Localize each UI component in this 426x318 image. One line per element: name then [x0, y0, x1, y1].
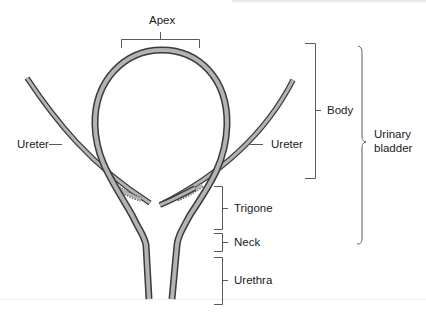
ureter-crossing [160, 188, 195, 205]
bladder-diagram [0, 0, 426, 318]
apex-label: Apex [149, 14, 175, 27]
urethra-bracket [214, 258, 228, 305]
body-label: Body [327, 104, 353, 117]
urethra-label: Urethra [234, 274, 272, 287]
ureter-right-label: Ureter [271, 138, 303, 151]
ureter-left-label: Ureter [17, 138, 49, 151]
trigone-bracket [214, 187, 228, 230]
apex-bracket [122, 32, 200, 48]
body-bracket [305, 44, 321, 179]
trigone-label: Trigone [234, 202, 273, 215]
urinary-bladder-brace [357, 46, 366, 244]
urinary-bladder-label-line1: Urinary [374, 128, 411, 141]
urinary-bladder-label-line2: bladder [374, 142, 412, 155]
neck-label: Neck [234, 236, 260, 249]
neck-bracket [214, 234, 228, 252]
